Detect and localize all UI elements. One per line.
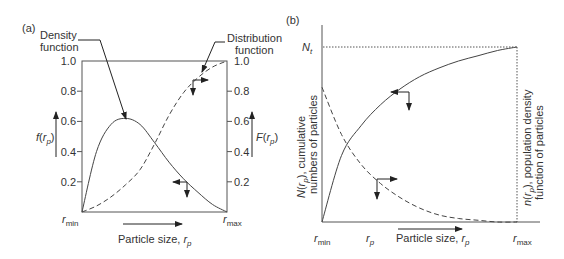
b-rmin-label: rmin xyxy=(314,232,331,247)
figure: (a) 0.20.40.60.81.0 0.20.40.60.81.0 Dens… xyxy=(0,0,564,259)
a-right-tick-label: 0.4 xyxy=(234,146,249,158)
cumulative-axis-label-line2: numbers of particles xyxy=(307,94,319,194)
panel-a-right-ticks: 0.20.40.60.81.0 xyxy=(227,55,249,188)
b-rmax-label: rmax xyxy=(513,232,532,247)
a-rmin-label: rmin xyxy=(62,213,79,228)
panel-b-tag: (b) xyxy=(286,14,299,26)
panel-a: (a) 0.20.40.60.81.0 0.20.40.60.81.0 Dens… xyxy=(22,22,282,248)
distribution-function-label-line2: function xyxy=(235,44,274,56)
b-rp-label: rp xyxy=(366,232,375,247)
distribution-function-label-line1: Distribution xyxy=(227,32,282,44)
panel-b: (b) Nt N(rp), cumulative numbers of part… xyxy=(286,14,545,247)
population-density-axis-label-line2: function of particles xyxy=(533,105,545,200)
density-callout-arrow xyxy=(78,40,126,119)
a-left-tick-label: 0.4 xyxy=(61,146,76,158)
nt-label: Nt xyxy=(302,41,313,56)
population-density-curve xyxy=(322,87,517,222)
density-curve xyxy=(82,118,227,212)
density-function-label-line1: Density xyxy=(40,29,77,41)
a-left-tick-label: 0.6 xyxy=(61,115,76,127)
cumulative-curve xyxy=(322,47,517,222)
distribution-callout-arrow xyxy=(202,42,225,72)
a-left-tick-label: 1.0 xyxy=(61,55,76,67)
panel-a-plot-frame xyxy=(82,61,227,212)
a-right-tick-label: 0.8 xyxy=(234,85,249,97)
panel-a-left-ticks: 0.20.40.60.81.0 xyxy=(61,55,82,188)
distribution-curve xyxy=(82,61,227,212)
a-right-tick-label: 0.2 xyxy=(234,176,249,188)
density-function-label-line2: function xyxy=(40,41,79,53)
a-left-tick-label: 0.8 xyxy=(61,85,76,97)
panel-a-tag: (a) xyxy=(22,22,35,34)
a-rmax-label: rmax xyxy=(223,213,242,228)
a-right-tick-label: 1.0 xyxy=(234,55,249,67)
b-x-axis-label: Particle size, rp xyxy=(396,232,470,247)
a-x-axis-label: Particle size, rp xyxy=(118,233,192,248)
F-axis-label: F(rp) xyxy=(256,131,278,146)
a-right-tick-label: 0.6 xyxy=(234,115,249,127)
f-axis-label: f(rp) xyxy=(36,131,55,146)
a-left-tick-label: 0.2 xyxy=(61,176,76,188)
